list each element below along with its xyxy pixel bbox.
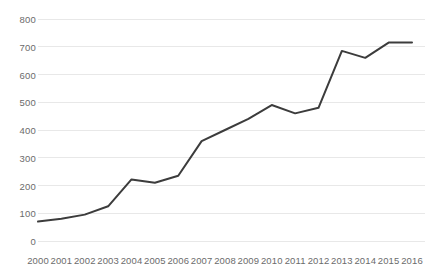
x-tick-label: 2014: [354, 255, 376, 266]
x-tick-label: 2000: [27, 255, 49, 266]
x-tick-label: 2004: [121, 255, 143, 266]
x-tick-label: 2011: [285, 255, 306, 266]
x-tick-label: 2008: [214, 255, 236, 266]
plot-area: 0100200300400500600700800 20002001200220…: [0, 0, 425, 274]
x-tick-label: 2016: [401, 255, 423, 266]
x-tick-label: 2002: [74, 255, 96, 266]
x-tick-label: 2015: [378, 255, 400, 266]
x-tick-label: 2012: [308, 255, 330, 266]
x-tick-label: 2009: [238, 255, 260, 266]
line-chart: 0100200300400500600700800 20002001200220…: [0, 0, 425, 274]
x-axis: 2000200120022003200420052006200720082009…: [0, 0, 425, 274]
x-tick-label: 2006: [167, 255, 189, 266]
x-tick-label: 2007: [191, 255, 213, 266]
x-tick-label: 2010: [261, 255, 283, 266]
x-tick-label: 2005: [144, 255, 166, 266]
x-tick-label: 2003: [97, 255, 119, 266]
x-tick-label: 2013: [331, 255, 353, 266]
x-tick-label: 2001: [51, 255, 73, 266]
